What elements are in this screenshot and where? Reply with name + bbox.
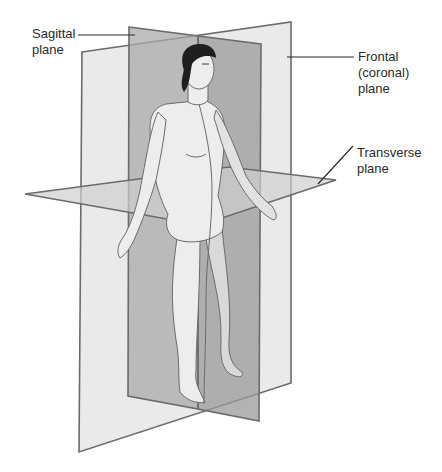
- transverse-leader-line: [318, 146, 353, 184]
- sagittal-plane-label: Sagittal plane: [32, 26, 75, 58]
- frontal-plane-label: Frontal (coronal) plane: [358, 49, 409, 97]
- transverse-plane-label: Transverse plane: [357, 145, 422, 177]
